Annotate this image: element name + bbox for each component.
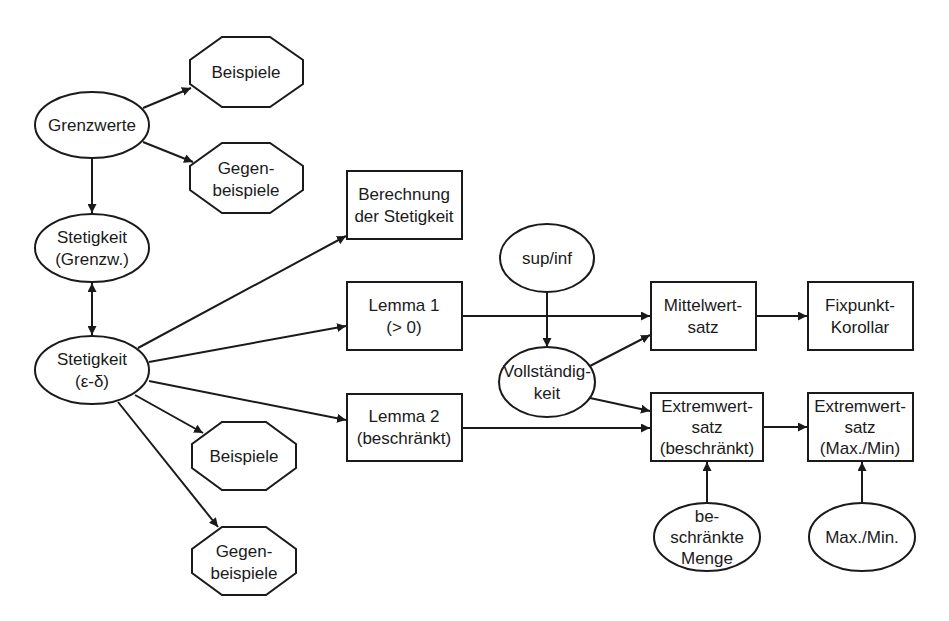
node-max-min: Max./Min. (809, 503, 915, 571)
node-label: Fixpunkt- (825, 296, 895, 315)
node-label: (beschränkt) (660, 439, 754, 458)
node-label: Max./Min. (825, 528, 899, 547)
node-label: Gegen- (216, 542, 273, 561)
node-label: Beispiele (210, 447, 279, 466)
edge-stetigkeit-beispiele-bottom (135, 395, 203, 433)
node-label: Lemma 2 (369, 407, 440, 426)
node-label: (ε-δ) (75, 372, 109, 391)
concept-diagram: Grenzwerte Beispiele Gegen- beispiele St… (0, 0, 949, 621)
node-gegenbeispiele-bottom: Gegen- beispiele (192, 527, 296, 595)
edge-grenzwerte-gegenbeispiele (143, 142, 193, 162)
node-gegenbeispiele-top: Gegen- beispiele (190, 143, 303, 213)
node-label: (beschränkt) (357, 429, 451, 448)
node-label: Stetigkeit (57, 228, 127, 247)
node-label: Lemma 1 (369, 296, 440, 315)
node-label: Gegen- (218, 159, 275, 178)
node-grenzwerte: Grenzwerte (35, 92, 149, 158)
node-stetigkeit-grenzw: Stetigkeit (Grenzw.) (35, 214, 149, 282)
node-label: satz (687, 318, 718, 337)
node-label: beispiele (210, 564, 277, 583)
node-label: (Grenzw.) (55, 250, 129, 269)
edge-stetigkeit-lemma1 (149, 326, 346, 362)
node-label: sup/inf (522, 249, 572, 268)
node-label: satz (691, 418, 722, 437)
edge-vollstaendigkeit-mittelwertsatz (590, 335, 650, 366)
node-label: satz (844, 418, 875, 437)
node-label: (> 0) (386, 318, 421, 337)
node-label: Stetigkeit (57, 350, 127, 369)
node-label: be- (695, 507, 720, 526)
node-sup-inf: sup/inf (500, 224, 594, 292)
node-label: keit (534, 384, 561, 403)
node-beispiele-bottom: Beispiele (192, 422, 296, 490)
node-label: Extremwert- (814, 397, 906, 416)
node-fixpunkt-korollar: Fixpunkt- Korollar (808, 282, 913, 350)
node-extremwertsatz-maxmin: Extremwert- satz (Max./Min) (808, 393, 913, 461)
node-label: der Stetigkeit (354, 207, 453, 226)
edge-stetigkeit-lemma2 (149, 381, 346, 420)
node-vollstaendigkeit: Vollständig- keit (499, 347, 595, 417)
node-label: (Max./Min) (820, 439, 900, 458)
node-berechnung-der-stetigkeit: Berechnung der Stetigkeit (347, 171, 462, 239)
node-lemma-1: Lemma 1 (> 0) (347, 282, 462, 350)
node-label: Vollständig- (503, 362, 591, 381)
node-label: schränkte (670, 528, 744, 547)
node-beschraenkte-menge: be- schränkte Menge (654, 503, 760, 571)
node-extremwertsatz-beschraenkt: Extremwert- satz (beschränkt) (651, 393, 763, 461)
node-label: Grenzwerte (48, 116, 136, 135)
node-label: Korollar (831, 318, 890, 337)
node-label: Beispiele (212, 63, 281, 82)
node-label: beispiele (212, 181, 279, 200)
node-label: Berechnung (358, 185, 450, 204)
node-mittelwertsatz: Mittelwert- satz (651, 282, 756, 350)
node-label: Mittelwert- (664, 296, 742, 315)
node-beispiele-top: Beispiele (190, 37, 303, 107)
node-stetigkeit-eps-delta: Stetigkeit (ε-δ) (35, 336, 149, 404)
node-label: Extremwert- (661, 397, 753, 416)
edge-grenzwerte-beispiele (143, 88, 191, 108)
node-lemma-2: Lemma 2 (beschränkt) (347, 394, 462, 461)
edge-vollstaendigkeit-extremwert (590, 398, 650, 411)
node-label: Menge (681, 549, 733, 568)
